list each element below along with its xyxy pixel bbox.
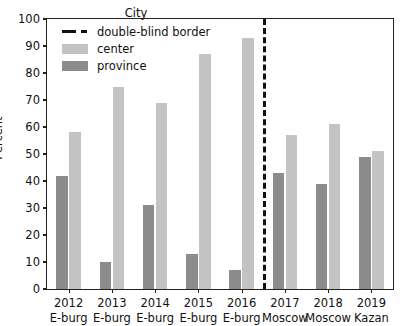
x-tick-label: 2018Moscow xyxy=(305,296,351,326)
y-tick-label: 90 xyxy=(25,38,40,54)
x-tick-label-year: 2014 xyxy=(136,296,174,311)
x-tick-label-city: E-burg xyxy=(223,311,261,326)
legend: City double-blind bordercenterprovince xyxy=(62,6,210,74)
y-tick-label: 70 xyxy=(25,92,40,108)
bar-center xyxy=(113,87,125,290)
bar-province xyxy=(186,254,198,289)
bar-center xyxy=(199,54,211,289)
y-tick-label: 100 xyxy=(18,11,40,27)
bar-group xyxy=(350,19,393,289)
bar-province xyxy=(359,157,371,289)
x-tick-mark xyxy=(69,289,70,293)
x-tick-label-year: 2019 xyxy=(354,296,389,311)
bar-province xyxy=(56,176,68,289)
y-tick-label: 40 xyxy=(25,173,40,189)
x-tick-mark xyxy=(198,289,199,293)
x-tick-label-year: 2015 xyxy=(179,296,217,311)
bar-center xyxy=(242,38,254,289)
y-axis-label: Percent xyxy=(0,116,5,159)
legend-entry-label: center xyxy=(97,42,134,56)
x-tick-label: 2013E-burg xyxy=(93,296,131,326)
x-tick-label-city: E-burg xyxy=(179,311,217,326)
x-tick-label-city: Kazan xyxy=(354,311,389,326)
bar-province xyxy=(100,262,112,289)
y-tick-label: 30 xyxy=(25,200,40,216)
bar-group xyxy=(307,19,350,289)
x-tick-label-year: 2017 xyxy=(262,296,308,311)
legend-entry: province xyxy=(62,57,210,74)
x-tick-label: 2017Moscow xyxy=(262,296,308,326)
bar-center xyxy=(372,151,384,289)
y-tick-label: 20 xyxy=(25,227,40,243)
bar-group xyxy=(263,19,306,289)
y-tick-label: 80 xyxy=(25,65,40,81)
bar-province xyxy=(273,173,285,289)
legend-entry: center xyxy=(62,40,210,57)
legend-swatch-icon xyxy=(62,61,88,71)
bar-province xyxy=(143,205,155,289)
y-tick-label: 60 xyxy=(25,119,40,135)
y-tick-label: 50 xyxy=(25,146,40,162)
x-tick-label-year: 2013 xyxy=(93,296,131,311)
legend-title: City xyxy=(62,6,210,20)
x-tick-label-city: E-burg xyxy=(93,311,131,326)
bar-center xyxy=(286,135,298,289)
y-tick-label: 0 xyxy=(33,281,40,297)
legend-entry: double-blind border xyxy=(62,23,210,40)
legend-entry-label: double-blind border xyxy=(97,25,210,39)
legend-swatch-icon xyxy=(62,44,88,54)
x-tick-label-city: E-burg xyxy=(136,311,174,326)
x-tick-label: 2016E-burg xyxy=(223,296,261,326)
bar-center xyxy=(329,124,341,289)
x-tick-mark xyxy=(242,289,243,293)
x-tick-mark xyxy=(155,289,156,293)
x-tick-mark xyxy=(112,289,113,293)
bar-center xyxy=(69,132,81,289)
y-tick-label: 10 xyxy=(25,254,40,270)
legend-dashed-line-icon xyxy=(62,27,88,37)
bar-province xyxy=(229,270,241,289)
x-tick-label-city: Moscow xyxy=(305,311,351,326)
x-tick-label-city: Moscow xyxy=(262,311,308,326)
x-tick-label: 2014E-burg xyxy=(136,296,174,326)
bar-center xyxy=(156,103,168,289)
double-blind-border-line xyxy=(263,19,266,289)
x-tick-label: 2015E-burg xyxy=(179,296,217,326)
x-tick-label-year: 2016 xyxy=(223,296,261,311)
x-tick-label-year: 2012 xyxy=(50,296,88,311)
x-tick-label-year: 2018 xyxy=(305,296,351,311)
legend-entry-label: province xyxy=(97,59,147,73)
x-tick-mark xyxy=(285,289,286,293)
x-tick-label: 2019Kazan xyxy=(354,296,389,326)
bar-province xyxy=(316,184,328,289)
x-tick-label: 2012E-burg xyxy=(50,296,88,326)
x-tick-mark xyxy=(371,289,372,293)
legend-entries: double-blind bordercenterprovince xyxy=(62,23,210,74)
x-tick-label-city: E-burg xyxy=(50,311,88,326)
x-tick-mark xyxy=(328,289,329,293)
bar-group xyxy=(220,19,263,289)
